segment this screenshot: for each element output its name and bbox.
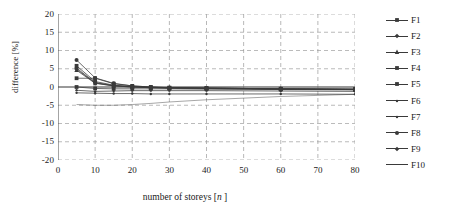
legend-marker-diamond-icon: [386, 31, 408, 41]
series-F2: [74, 66, 355, 92]
x-tick-label: 30: [157, 166, 181, 175]
legend-label: F4: [408, 63, 421, 73]
chart-figure: 20151050-5-10-15-20 difference [%] 01020…: [0, 0, 454, 219]
y-tick-label: 15: [28, 28, 54, 37]
y-tick-label: -20: [28, 156, 54, 165]
x-tick-label: 70: [306, 166, 330, 175]
y-tick-label: -15: [28, 137, 54, 146]
y-tick-label: -10: [28, 119, 54, 128]
legend-label: F5: [408, 79, 421, 89]
legend-marker-square-icon: [386, 79, 408, 89]
legend-item-F10[interactable]: F10: [386, 157, 452, 173]
x-tick-label: 80: [343, 166, 367, 175]
plot-area: [58, 14, 355, 160]
x-tick-label: 40: [195, 166, 219, 175]
y-tick-label: 0: [28, 83, 54, 92]
legend-marker-none-icon: [386, 160, 408, 170]
x-axis-title-text: number of storeys [: [143, 192, 217, 202]
series-F6: [75, 92, 355, 96]
legend-item-F7[interactable]: F7: [386, 109, 452, 125]
legend-label: F1: [408, 15, 421, 25]
x-tick-label: 0: [46, 166, 70, 175]
x-tick-label: 20: [120, 166, 144, 175]
legend-item-F1[interactable]: F1: [386, 12, 452, 28]
legend-label: F9: [408, 144, 421, 154]
legend-item-F2[interactable]: F2: [386, 28, 452, 44]
y-tick-label: 10: [28, 46, 54, 55]
legend-label: F2: [408, 31, 421, 41]
x-tick-label: 50: [232, 166, 256, 175]
legend-marker-square-icon: [386, 15, 408, 25]
x-axis-title-tail: ]: [222, 192, 228, 202]
x-axis-title: number of storeys [n ]: [0, 192, 370, 203]
x-tick-label: 60: [269, 166, 293, 175]
legend-item-F4[interactable]: F4: [386, 60, 452, 76]
legend-marker-circle-icon: [386, 128, 408, 138]
y-tick-label: -5: [28, 101, 54, 110]
y-tick-label: 20: [28, 10, 54, 19]
legend-label: F8: [408, 128, 421, 138]
legend-item-F9[interactable]: F9: [386, 141, 452, 157]
legend-label: F6: [408, 96, 421, 106]
chart-legend: F1F2F3F4F5F6F7F8F9F10: [386, 12, 452, 173]
legend-marker-diamond-icon: [386, 144, 408, 154]
legend-marker-dot-icon: [386, 112, 408, 122]
legend-label: F10: [408, 160, 425, 170]
legend-item-F6[interactable]: F6: [386, 92, 452, 108]
x-tick-label: 10: [83, 166, 107, 175]
legend-item-F3[interactable]: F3: [386, 44, 452, 60]
legend-item-F8[interactable]: F8: [386, 125, 452, 141]
legend-item-F5[interactable]: F5: [386, 76, 452, 92]
chart-canvas: [58, 14, 355, 160]
y-tick-label: 5: [28, 64, 54, 73]
series-F10: [77, 94, 355, 105]
y-axis-tick-labels: 20151050-5-10-15-20: [26, 0, 54, 219]
legend-marker-triangle-icon: [386, 47, 408, 57]
legend-label: F7: [408, 112, 421, 122]
y-axis-title: difference [%]: [10, 19, 20, 115]
legend-marker-square-icon: [386, 63, 408, 73]
legend-label: F3: [408, 47, 421, 57]
legend-marker-dot-icon: [386, 96, 408, 106]
